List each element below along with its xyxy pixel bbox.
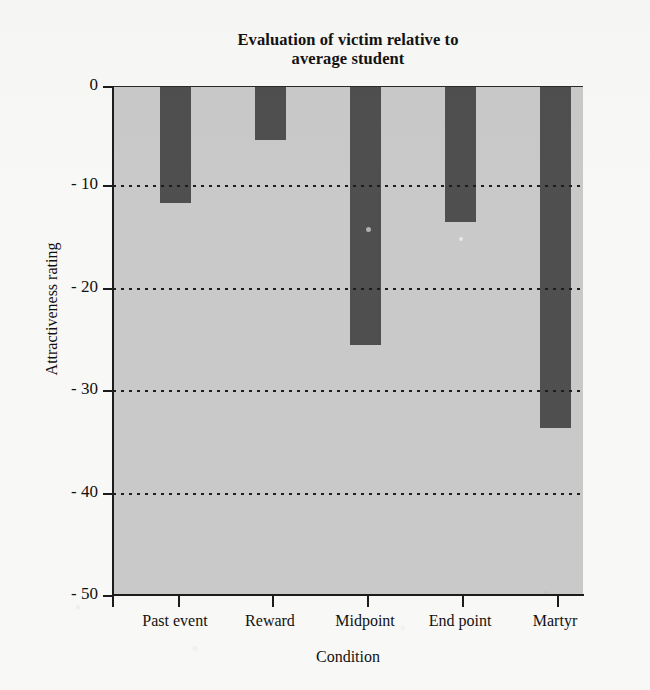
y-tick-label-minus-10: - 10 [0, 174, 98, 194]
x-tick-4 [462, 596, 464, 607]
gridline-minus-40 [113, 493, 583, 495]
bar-reward[interactable] [255, 87, 286, 140]
scan-speck [459, 237, 463, 241]
y-tick-0 [103, 86, 114, 88]
y-tick-label-minus-40: - 40 [0, 482, 98, 502]
x-label-martyr: Martyr [495, 612, 615, 630]
x-tick-5 [557, 596, 559, 607]
bar-chart-figure: Evaluation of victim relative to average… [0, 0, 650, 690]
gridline-minus-20 [113, 288, 583, 290]
bar-martyr[interactable] [540, 87, 571, 428]
scan-speck [366, 227, 371, 232]
x-tick-2 [272, 596, 274, 607]
gridline-minus-30 [113, 390, 583, 392]
x-tick-0 [112, 596, 114, 607]
y-axis-line [112, 86, 114, 596]
y-tick-label-0: 0 [0, 75, 98, 95]
y-axis-title: Attractiveness rating [43, 209, 61, 409]
x-tick-3 [367, 596, 369, 607]
bar-midpoint[interactable] [350, 87, 381, 345]
y-tick-label-minus-50: - 50 [0, 584, 98, 604]
chart-title: Evaluation of victim relative to average… [113, 30, 583, 68]
x-axis-title: Condition [113, 648, 583, 666]
x-axis-line [112, 594, 584, 596]
gridline-minus-10 [113, 185, 583, 187]
x-tick-1 [178, 596, 180, 607]
bar-end-point[interactable] [445, 87, 476, 222]
